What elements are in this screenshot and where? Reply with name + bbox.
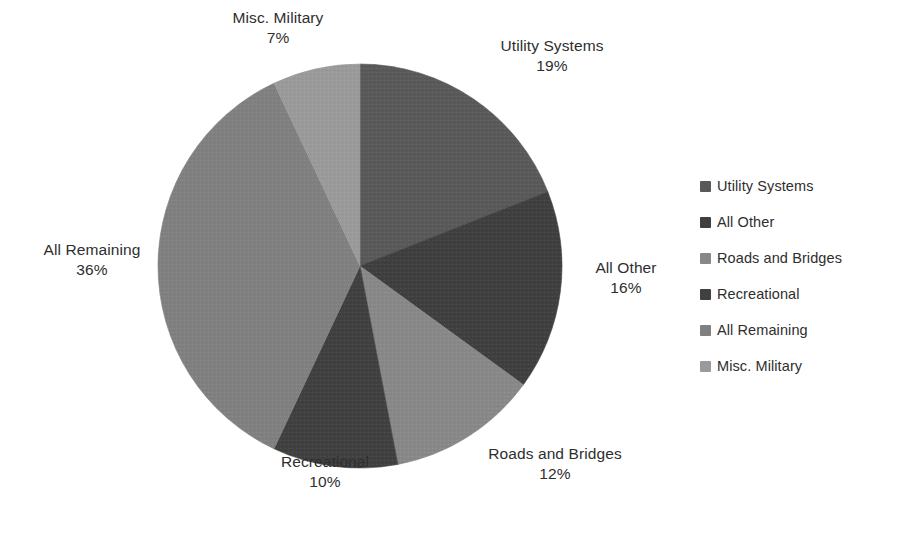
slice-label-text: Misc. Military [233,9,324,26]
pie-texture-overlay [158,64,562,468]
legend-item-label: All Remaining [717,322,808,338]
legend-item[interactable]: Recreational [700,276,895,312]
slice-label-percent: 19% [452,56,652,76]
legend-item-label: Misc. Military [717,358,802,374]
slice-label-all-other: All Other 16% [556,258,696,299]
slice-label-percent: 7% [178,28,378,48]
pie-chart: Utility Systems 19% All Other 16% Roads … [0,0,903,544]
legend-item-label: Recreational [717,286,800,302]
legend-item-label: Roads and Bridges [717,250,842,266]
slice-label-text: Utility Systems [500,37,603,54]
square-swatch-icon [700,325,711,336]
slice-label-percent: 16% [556,278,696,298]
legend-item-label: Utility Systems [717,178,814,194]
square-swatch-icon [700,289,711,300]
slice-label-recreational: Recreational 10% [235,452,415,493]
square-swatch-icon [700,361,711,372]
slice-label-text: All Remaining [44,241,141,258]
slice-label-text: All Other [595,259,656,276]
square-swatch-icon [700,217,711,228]
slice-label-text: Roads and Bridges [488,445,622,462]
square-swatch-icon [700,181,711,192]
square-swatch-icon [700,253,711,264]
legend-item-label: All Other [717,214,774,230]
slice-label-roads-and-bridges: Roads and Bridges 12% [450,444,660,485]
slice-label-utility-systems: Utility Systems 19% [452,36,652,77]
legend-item[interactable]: Roads and Bridges [700,240,895,276]
chart-legend: Utility SystemsAll OtherRoads and Bridge… [700,168,895,384]
legend-item[interactable]: All Remaining [700,312,895,348]
slice-label-text: Recreational [281,453,369,470]
legend-item[interactable]: Misc. Military [700,348,895,384]
legend-item[interactable]: All Other [700,204,895,240]
slice-label-all-remaining: All Remaining 36% [12,240,172,281]
slice-label-misc-military: Misc. Military 7% [178,8,378,49]
legend-item[interactable]: Utility Systems [700,168,895,204]
slice-label-percent: 10% [235,472,415,492]
slice-label-percent: 36% [12,260,172,280]
slice-label-percent: 12% [450,464,660,484]
